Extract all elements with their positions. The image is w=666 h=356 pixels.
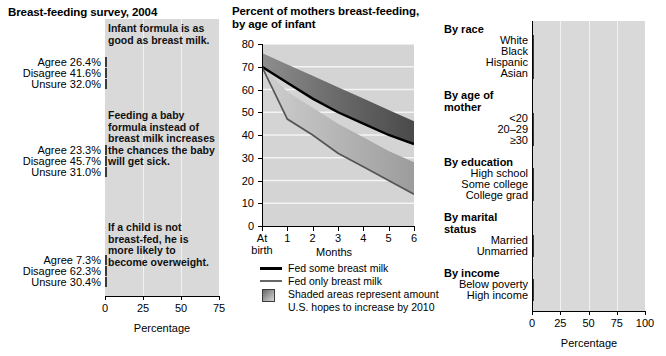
middle-line-chart-panel: Percent of mothers breast-feeding, by ag… <box>226 0 424 356</box>
legend-label: Fed only breast milk <box>288 275 382 288</box>
legend-line-some-icon <box>260 267 282 270</box>
middle-y-tick-mark <box>258 67 262 68</box>
demographic-bar <box>532 113 611 124</box>
middle-y-tick-mark <box>258 158 262 159</box>
middle-y-tick-mark <box>258 135 262 136</box>
demographic-bar-label: College grad <box>466 190 528 201</box>
middle-x-tick-mark <box>389 227 390 231</box>
middle-x-tick-mark <box>313 227 314 231</box>
bar-fill <box>105 68 107 78</box>
left-panel-title: Breast-feeding survey, 2004 <box>8 6 157 19</box>
left-tick-mark <box>105 296 106 300</box>
survey-bar <box>105 255 116 265</box>
middle-x-tick-label: 3 <box>324 233 352 244</box>
right-tick-label: 100 <box>631 318 659 329</box>
bar-fill <box>105 167 107 177</box>
legend-row: Shaded areas represent amount <box>260 288 440 301</box>
bar-fill <box>105 156 107 166</box>
right-tick-mark <box>560 311 561 315</box>
infographic-root: Breast-feeding survey, 2004 Infant formu… <box>0 0 666 356</box>
middle-plot-area <box>262 44 414 226</box>
legend-line-only-icon <box>260 280 282 282</box>
middle-y-tick-label: 30 <box>234 153 254 164</box>
bar-fill <box>105 145 107 155</box>
demographic-bar-label: High income <box>467 290 528 301</box>
group-heading-second-line: status <box>444 223 476 235</box>
middle-y-tick-mark <box>258 90 262 91</box>
bar-fill <box>105 266 107 276</box>
middle-x-tick-mark <box>262 227 263 231</box>
demographic-bar <box>532 124 589 135</box>
group-heading: By marital <box>444 211 497 223</box>
right-tick-label: 50 <box>575 318 603 329</box>
middle-y-tick-label: 50 <box>234 107 254 118</box>
left-x-axis-label: Percentage <box>105 322 219 334</box>
right-x-axis-label: Percentage <box>532 337 646 349</box>
survey-bar <box>105 266 200 276</box>
middle-y-tick-label: 60 <box>234 85 254 96</box>
survey-bar <box>105 145 140 155</box>
legend-label: Shaded areas represent amount <box>288 288 439 301</box>
middle-x-tick-mark <box>363 227 364 231</box>
demographic-bar <box>532 57 621 68</box>
demographic-bar <box>532 290 589 301</box>
right-tick-mark <box>617 311 618 315</box>
survey-bar-label: Unsure 31.0% <box>31 167 101 178</box>
right-tick-label: 0 <box>518 318 546 329</box>
middle-panel-title: Percent of mothers breast-feeding, by ag… <box>232 5 422 31</box>
group-heading: By age of <box>444 89 494 101</box>
middle-legend: Fed some breast milkFed only breast milk… <box>260 262 440 314</box>
middle-y-tick-label: 0 <box>234 221 254 232</box>
middle-x-tick-label: 1 <box>273 233 301 244</box>
middle-x-tick-label: 2 <box>299 233 327 244</box>
middle-y-tick-mark <box>258 44 262 45</box>
demographic-bar <box>532 168 611 179</box>
middle-x-tick-label: 4 <box>349 233 377 244</box>
survey-bar-label: Unsure 30.4% <box>31 277 101 288</box>
right-tick-mark <box>645 311 646 315</box>
legend-label: Fed some breast milk <box>288 262 388 275</box>
left-tick-mark <box>219 296 220 300</box>
left-tick-mark <box>143 296 144 300</box>
survey-question-text: Infant formula is as good as breast milk… <box>108 23 216 46</box>
group-heading-second-line: mother <box>444 101 481 113</box>
left-tick-label: 25 <box>131 303 155 314</box>
group-heading: By race <box>444 23 484 35</box>
middle-y-tick-label: 80 <box>234 39 254 50</box>
right-tick-label: 25 <box>546 318 574 329</box>
survey-bar <box>105 277 151 287</box>
middle-x-tick-mark <box>287 227 288 231</box>
middle-y-tick-mark <box>258 112 262 113</box>
left-tick-mark <box>181 296 182 300</box>
demographic-bar <box>532 35 611 46</box>
middle-x-tick-mark <box>338 227 339 231</box>
survey-bar <box>105 156 174 166</box>
left-tick-label: 0 <box>93 303 117 314</box>
survey-bar-label: Unsure 32.0% <box>31 79 101 90</box>
bar-fill <box>105 255 107 265</box>
middle-y-tick-label: 20 <box>234 176 254 187</box>
bar-fill <box>105 79 107 89</box>
middle-x-tick-label: At <box>248 233 276 244</box>
survey-bar <box>105 57 145 67</box>
right-tick-mark <box>532 311 533 315</box>
demographic-bar <box>532 279 610 290</box>
survey-bar <box>105 79 154 89</box>
legend-row: U.S. hopes to increase by 2010 <box>260 301 440 314</box>
middle-x-axis-label: Months <box>316 246 352 258</box>
demographic-bar <box>532 235 611 246</box>
middle-y-tick-label: 70 <box>234 62 254 73</box>
middle-y-tick-label: 10 <box>234 198 254 209</box>
demographic-bar <box>532 179 589 190</box>
survey-bar <box>105 167 152 177</box>
middle-y-tick-label: 40 <box>234 130 254 141</box>
bar-fill <box>105 277 107 287</box>
survey-bar <box>105 68 168 78</box>
legend-row: Fed only breast milk <box>260 275 440 288</box>
demographic-bar <box>532 68 616 79</box>
middle-y-tick-mark <box>258 203 262 204</box>
demographic-bar <box>532 246 587 257</box>
middle-chart-svg <box>262 44 414 226</box>
demographic-bar-label: Unmarried <box>477 246 528 257</box>
demographic-bar-label: ≥30 <box>510 135 528 146</box>
